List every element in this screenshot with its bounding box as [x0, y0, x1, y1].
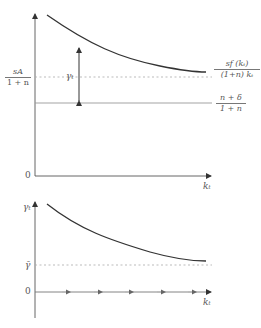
- upper-panel: [35, 14, 212, 176]
- lower-origin-label: 0: [25, 287, 31, 296]
- lower-x-axis-label: kₜ: [203, 298, 211, 307]
- lower-asymptote-label: γ̄: [25, 261, 30, 270]
- diagram-canvas: [0, 0, 261, 328]
- curve-label-sf: sf (kₜ) (1+n) kₜ: [214, 60, 260, 79]
- growth-rate-curve: [47, 204, 206, 261]
- asymptote-label-sA: sA 1 + n: [5, 68, 31, 87]
- lower-y-axis-label: γₜ: [23, 203, 31, 212]
- lower-panel: [35, 202, 212, 318]
- savings-curve: [47, 15, 206, 72]
- gap-label-gamma: γₜ: [66, 72, 74, 81]
- upper-x-axis-label: kₜ: [203, 182, 211, 191]
- upper-origin-label: 0: [25, 171, 31, 180]
- depreciation-line-label: n + δ 1 + n: [216, 94, 246, 113]
